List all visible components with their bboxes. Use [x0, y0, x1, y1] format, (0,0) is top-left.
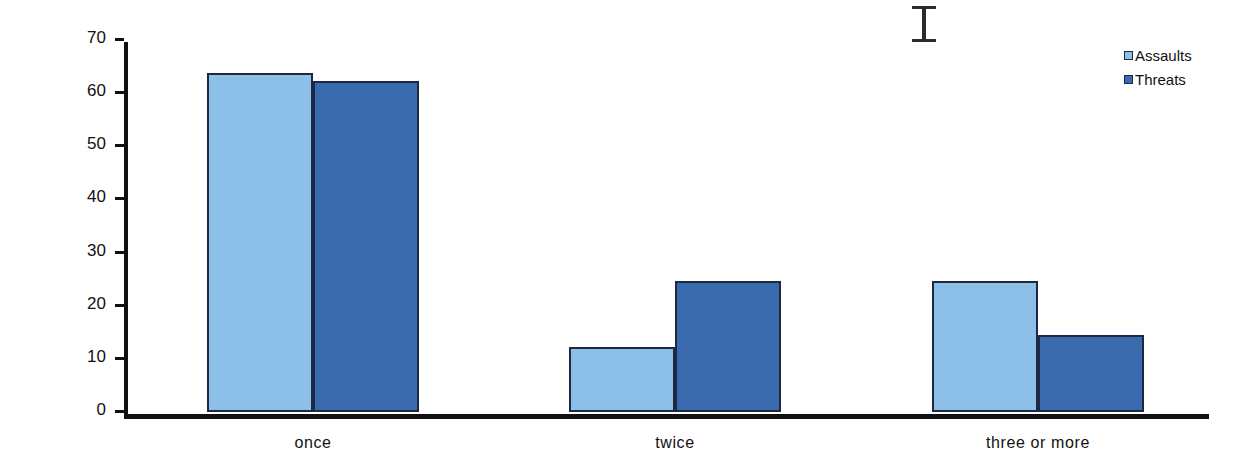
- legend-swatch-threats-icon: [1124, 75, 1133, 84]
- legend-item-assaults[interactable]: Assaults: [1124, 44, 1236, 66]
- bar-assaults-once: [207, 73, 313, 412]
- y-tick-label: 20: [87, 294, 106, 314]
- legend: Assaults Threats: [1124, 44, 1236, 92]
- y-tick: 60: [115, 91, 124, 94]
- bar-threats-twice: [675, 281, 781, 412]
- y-tick: 50: [115, 144, 124, 147]
- text-cursor-icon: [912, 6, 936, 42]
- y-tick: 20: [115, 304, 124, 307]
- y-tick: 70: [115, 38, 124, 41]
- legend-label-assaults: Assaults: [1135, 47, 1192, 64]
- bar-threats-three-or-more: [1038, 335, 1144, 412]
- y-tick: 10: [115, 357, 124, 360]
- legend-swatch-assaults-icon: [1124, 51, 1133, 60]
- bar-assaults-three-or-more: [932, 281, 1038, 412]
- x-axis-label-twice: twice: [535, 434, 815, 452]
- y-tick: 0: [115, 410, 124, 413]
- x-axis-label-once: once: [173, 434, 453, 452]
- y-tick: 30: [115, 251, 124, 254]
- plot-area: 010203040506070 oncetwicethree or more: [124, 42, 1209, 416]
- y-tick-label: 40: [87, 187, 106, 207]
- y-tick-label: 50: [87, 134, 106, 154]
- legend-label-threats: Threats: [1135, 71, 1186, 88]
- bar-chart: Percentage 010203040506070 oncetwicethre…: [0, 0, 1243, 454]
- y-tick: 40: [115, 197, 124, 200]
- bar-threats-once: [313, 81, 419, 412]
- y-tick-label: 0: [97, 400, 106, 420]
- y-tick-label: 30: [87, 241, 106, 261]
- x-axis-line: [124, 414, 1209, 419]
- bar-assaults-twice: [569, 347, 675, 412]
- y-axis-line: [124, 42, 128, 418]
- x-axis-label-three-or-more: three or more: [898, 434, 1178, 452]
- y-tick-label: 60: [87, 81, 106, 101]
- y-tick-label: 10: [87, 347, 106, 367]
- legend-item-threats[interactable]: Threats: [1124, 68, 1236, 90]
- y-tick-label: 70: [87, 28, 106, 48]
